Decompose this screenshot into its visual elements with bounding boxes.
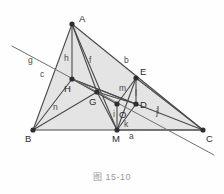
vertex-dot-d [133,101,138,106]
point-label-h: H [64,84,71,94]
point-label-g: G [89,97,96,107]
point-label-a: A [79,14,85,24]
shaded-regions [33,24,203,130]
segment-label-i: i [113,110,115,119]
segment-label-j: j [156,108,158,117]
vertex-dot-e [133,75,138,80]
figure-caption: 图 15-10 [0,170,224,183]
vertex-dot-c [200,127,205,132]
segment-label-g: g [28,56,33,65]
vertex-dot-g [94,89,99,94]
point-label-m: M [112,134,120,144]
segment-label-c: c [40,70,44,79]
segment-label-m: m [119,84,126,93]
shaded-triangle-abc [33,24,203,130]
segment-label-b: b [124,56,129,65]
vertex-dot-m [114,127,119,132]
vertex-dot-b [30,127,35,132]
point-label-d: D [140,100,147,110]
vertex-dot-h [69,76,74,81]
geometry-diagram [0,0,224,194]
vertex-dot-o [114,101,119,106]
figure-canvas: ABCHGEDOMabcfghijklmn 图 15-10 [0,0,224,194]
vertex-dot-a [69,21,74,26]
segment-label-l: l [135,89,137,98]
point-label-e: E [140,67,146,77]
point-label-c: C [206,134,213,144]
segment-label-n: n [53,103,58,112]
segment-label-h: h [64,54,69,63]
segment-label-a: a [129,132,134,141]
segment-label-k: k [124,120,128,129]
point-label-b: B [25,134,31,144]
segment-label-f: f [89,56,91,65]
